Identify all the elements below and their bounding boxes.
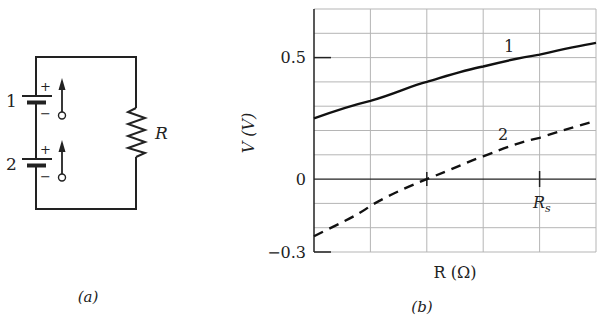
curve-1 [314, 43, 596, 118]
rs-label: Rs [532, 193, 551, 215]
battery-1-label: 1 [6, 91, 17, 111]
battery-2-minus: − [40, 169, 51, 184]
resistor-label: R [154, 123, 168, 143]
battery-1-plus: + [40, 79, 51, 94]
arrow-icon [59, 78, 66, 119]
curve-1-label: 1 [504, 37, 514, 56]
y-tick-label-0: 0 [296, 170, 306, 189]
y-axis-label: V (V) [239, 113, 258, 154]
battery-1-minus: − [40, 106, 51, 121]
y-tick-label-minus-0.3: −0.3 [267, 243, 306, 262]
panel-a-caption: (a) [78, 288, 99, 306]
rs-label-main: R [532, 193, 545, 212]
x-axis-label-text: R (Ω) [434, 263, 477, 282]
curve-2-label: 2 [498, 125, 508, 144]
figure: 1 + − 2 + − R (a) 0.5 0 −0.3 [0, 0, 607, 330]
battery-2-label: 2 [6, 154, 17, 174]
arrow-icon [59, 140, 66, 181]
y-axis-label-text: V (V) [239, 113, 258, 154]
circuit-wire-top [36, 57, 136, 108]
circuit-wire-bottom [36, 157, 136, 209]
battery-2-plus: + [40, 142, 51, 157]
chart-grid [314, 9, 596, 252]
rs-label-subscript: s [545, 202, 551, 215]
resistor-zigzag [128, 108, 145, 157]
x-axis-label: R (Ω) [434, 263, 477, 282]
panel-b-caption: (b) [411, 298, 432, 316]
y-tick-label-0.5: 0.5 [281, 48, 306, 67]
